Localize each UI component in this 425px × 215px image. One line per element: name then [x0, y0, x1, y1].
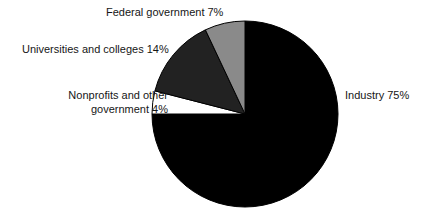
pie-label-nonprofits: Nonprofits and othergovernment 4%	[42, 89, 168, 116]
pie-label-universities: Universities and colleges 14%	[22, 43, 169, 57]
pie-label-nonprofits-line1: Nonprofits and other	[68, 89, 168, 101]
pie-label-federal: Federal government 7%	[106, 6, 223, 20]
pie-chart-figure: Federal government 7% Universities and c…	[0, 0, 425, 215]
pie-slices	[152, 21, 338, 207]
pie-label-nonprofits-line2: government 4%	[91, 103, 168, 115]
pie-label-industry: Industry 75%	[345, 89, 409, 103]
